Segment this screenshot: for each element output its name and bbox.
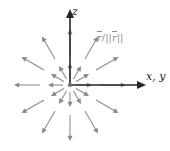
field-arrow-210-inner	[51, 89, 64, 97]
field-arrow-330-inner	[76, 89, 89, 97]
axis-group	[66, 9, 146, 89]
x-y-axis-arrow-head	[137, 81, 146, 89]
field-arrow-150-outer	[22, 57, 45, 70]
field-arrow-270-outer	[67, 115, 72, 141]
field-arrow-240-outer-shaft	[43, 111, 55, 131]
field-arrow-330-outer-shaft	[96, 100, 116, 112]
field-label-norm-close: ||	[117, 32, 124, 43]
field-arrow-240-outer	[42, 111, 55, 134]
field-arrow-150-outer-shaft	[24, 58, 44, 70]
field-arrow-30-inner	[76, 74, 89, 82]
field-arrow-150-inner	[51, 74, 64, 82]
field-arrow-300-outer-shaft	[85, 111, 97, 131]
field-arrow-60-inner	[74, 66, 82, 79]
z-axis-arrow	[66, 9, 74, 85]
field-arrow-330-outer	[96, 100, 119, 113]
field-arrow-180-inner-head	[48, 82, 53, 87]
field-arrow-180-inner	[48, 82, 63, 87]
field-arrow-240-inner	[59, 91, 67, 104]
field-label-norm-vector: r	[112, 33, 117, 43]
field-arrow-300-inner	[74, 91, 82, 104]
vector-field-figure: z x, y r/||r||	[0, 0, 170, 151]
vector-bar-icon	[112, 31, 117, 32]
field-label-numerator-text: r	[97, 32, 102, 43]
field-arrow-120-outer-shaft	[43, 39, 55, 59]
field-arrow-60-outer-shaft	[85, 39, 97, 59]
field-label: r/||r||	[97, 33, 123, 43]
field-arrow-180-outer	[14, 82, 40, 87]
vector-bar-icon	[97, 31, 102, 32]
field-arrow-180-outer-head	[14, 82, 19, 87]
field-arrow-30-outer	[96, 57, 119, 70]
vector-field-canvas	[0, 0, 170, 151]
field-arrow-210-outer	[22, 100, 45, 113]
field-arrow-300-outer	[85, 111, 98, 134]
field-arrow-120-outer	[42, 37, 55, 60]
x-y-axis-label: x, y	[146, 71, 165, 82]
field-label-numerator: r	[97, 33, 102, 43]
field-arrow-270-outer-head	[67, 136, 72, 141]
field-label-norm-open: ||	[105, 32, 112, 43]
field-arrow-270-inner-head	[67, 102, 72, 107]
field-arrow-30-outer-shaft	[96, 58, 116, 70]
field-arrow-270-inner	[67, 92, 72, 107]
field-label-norm-vector-text: r	[112, 32, 117, 43]
x-y-axis-arrow	[70, 81, 146, 89]
origin-dot	[68, 83, 72, 87]
field-arrow-120-inner	[59, 66, 67, 79]
field-arrow-210-outer-shaft	[24, 100, 44, 112]
z-axis-label: z	[72, 6, 78, 17]
